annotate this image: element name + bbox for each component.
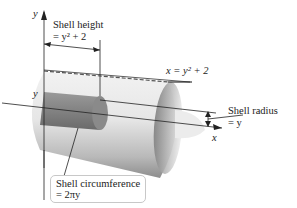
shell-height-label-line2: = y² + 2 (53, 31, 86, 42)
x-axis-arrow (213, 124, 222, 130)
shell-method-diagram (0, 0, 297, 208)
shell-radius-label-line1: Shell radius (228, 105, 278, 116)
x-axis-label: x (212, 132, 217, 143)
y-axis-label: y (33, 8, 38, 19)
shell-circumference-line2: = 2πy (56, 189, 140, 200)
shell-height-label-line1: Shell height (53, 19, 103, 30)
curve-equation-label: x = y² + 2 (166, 65, 208, 76)
shell-radius-label-line2: = y (228, 117, 242, 128)
shell-circumference-box: Shell circumference = 2πy (50, 175, 146, 203)
y-axis-arrow (41, 10, 47, 20)
shell-circumference-line1: Shell circumference (56, 178, 140, 189)
y-level-label: y (33, 88, 38, 99)
